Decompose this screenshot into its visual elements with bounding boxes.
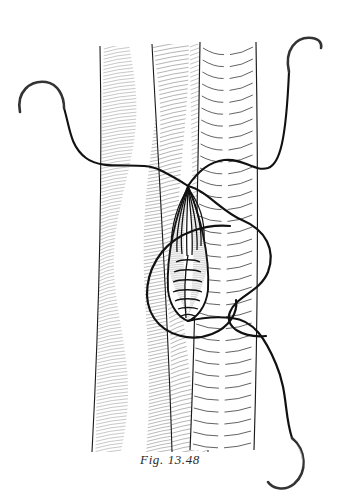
figure-caption: Fig. 13.48 [0, 452, 340, 468]
needle-top-right [288, 38, 321, 72]
surgical-illustration [0, 0, 340, 504]
needle-left [19, 82, 64, 112]
figure-container: Fig. 13.48 [0, 0, 340, 504]
